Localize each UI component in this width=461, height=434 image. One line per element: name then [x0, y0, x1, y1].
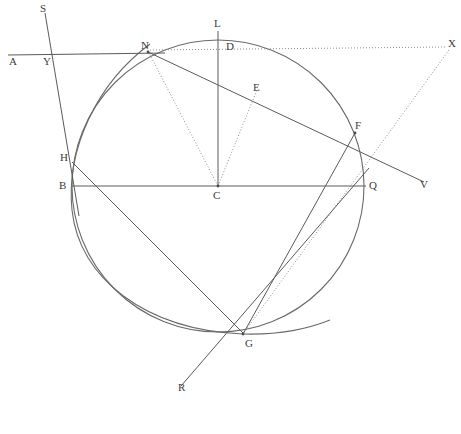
point-label-L: L: [214, 18, 221, 29]
point-label-R: R: [178, 382, 185, 393]
vertex-dot-N: [147, 51, 150, 54]
line-Q-to-G-to-R: [181, 168, 369, 386]
line-N-to-F-to-V: [148, 52, 424, 182]
point-label-D: D: [226, 41, 234, 52]
line-A-to-N: [8, 53, 165, 55]
point-label-S: S: [40, 3, 46, 14]
dotted-line-X-to-G: [243, 50, 449, 334]
dotted-line-C-to-N: [149, 53, 218, 186]
dotted-line-C-to-E: [218, 90, 257, 186]
point-label-H: H: [60, 152, 68, 163]
geometry-figure: S L X N D A Y E F H B C Q V G R: [0, 0, 461, 434]
point-label-G: G: [245, 338, 253, 349]
point-label-N: N: [141, 40, 149, 51]
point-label-Q: Q: [369, 180, 377, 191]
point-label-X: X: [448, 38, 456, 49]
point-label-A: A: [9, 56, 17, 67]
line-H-to-G: [72, 162, 244, 334]
point-label-V: V: [420, 179, 428, 190]
point-label-E: E: [253, 82, 260, 93]
point-label-C: C: [213, 190, 220, 201]
point-label-B: B: [59, 180, 66, 191]
line-F-to-G: [243, 133, 355, 334]
vertex-dot-F: [354, 132, 357, 135]
vertex-dot-C: [217, 185, 220, 188]
dotted-line-N-to-X: [150, 47, 446, 50]
point-label-Y: Y: [43, 56, 51, 67]
point-label-F: F: [355, 120, 361, 131]
vertex-dot-G: [242, 333, 245, 336]
geometry-canvas: [0, 0, 461, 434]
